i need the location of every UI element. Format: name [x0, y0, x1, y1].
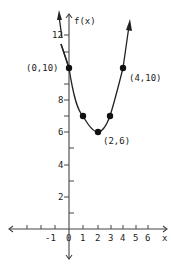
point-0-10 [66, 65, 72, 71]
parabola-curve [61, 26, 129, 132]
y-tick-label: 4 [58, 160, 63, 170]
x-tick-label: 3 [108, 233, 113, 243]
x-tick-label: 4 [120, 233, 125, 243]
y-axis: 2 4 6 8 12 f(x) [52, 14, 96, 259]
point-label-4-10: (4,10) [129, 73, 162, 83]
y-tick-label: 8 [58, 95, 63, 105]
point-3-7 [107, 113, 113, 119]
y-tick-label: 6 [58, 127, 63, 137]
x-tick-label: 1 [80, 233, 85, 243]
x-axis-label: x [162, 233, 168, 243]
point-label-2-6: (2,6) [103, 136, 130, 146]
curve-right-arrow-icon [126, 19, 132, 31]
y-tick-label: 2 [58, 192, 63, 202]
point-2-6 [95, 129, 101, 135]
x-tick-label: -1 [45, 233, 56, 243]
x-tick-label: 5 [133, 233, 138, 243]
x-axis: -1 0 1 2 3 4 5 6 x [9, 225, 168, 243]
function-graph: -1 0 1 2 3 4 5 6 x 2 4 6 8 12 f(x) [0, 0, 171, 266]
point-1-7 [80, 113, 86, 119]
point-4-10 [120, 65, 126, 71]
y-axis-label: f(x) [74, 16, 96, 26]
x-tick-label: 6 [145, 233, 150, 243]
point-label-0-10: (0,10) [26, 63, 59, 73]
x-tick-label: 2 [95, 233, 100, 243]
